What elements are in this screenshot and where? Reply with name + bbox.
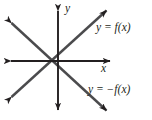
coordinate-plane-svg (0, 0, 152, 120)
function-label-negative-f: y = −f(x) (88, 84, 130, 96)
y-axis-label: y (65, 3, 70, 15)
function-label-f: y = f(x) (96, 22, 131, 34)
x-axis-label: x (101, 63, 106, 75)
line-negative-f (12, 23, 107, 111)
graph-figure: y x y = f(x) y = −f(x) (0, 0, 152, 120)
